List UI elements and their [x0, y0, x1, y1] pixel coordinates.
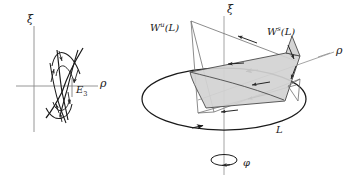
- figure-canvas: ξ ρ E3 ξ ρ Wu(L) Ws(L) L φ: [0, 0, 358, 181]
- right-panel-group: [142, 16, 334, 175]
- separatrix-long-right: [60, 50, 78, 116]
- rotation-label: φ: [243, 158, 250, 168]
- left-rho-axis-label: ρ: [100, 78, 106, 89]
- right-rho-axis-label: ρ: [336, 45, 342, 56]
- equilibrium-label: E3: [76, 85, 88, 98]
- left-xi-axis-label: ξ: [27, 14, 33, 25]
- rho-axis-arrow: [318, 53, 330, 57]
- periodic-orbit-label: L: [276, 125, 283, 135]
- right-xi-axis-label: ξ: [227, 4, 233, 15]
- stable-manifold-label-argument: (L): [281, 26, 295, 37]
- unstable-flow-arrow-top: [238, 36, 257, 43]
- unstable-manifold-label-argument: (L): [165, 22, 179, 33]
- unstable-manifold-label-base: W: [150, 22, 160, 33]
- stable-manifold-label: Ws(L): [267, 26, 295, 37]
- left-panel-group: [16, 26, 98, 132]
- unstable-manifold-label: Wu(L): [150, 22, 179, 33]
- separatrix-long-left: [50, 63, 66, 123]
- trajectory-lower-outer: [46, 104, 72, 119]
- left-flow-arrow-inbound-right: [74, 70, 78, 83]
- equilibrium-label-subscript: 3: [83, 90, 87, 98]
- stable-manifold-label-base: W: [267, 26, 277, 37]
- left-flow-arrow-bottom: [60, 113, 62, 122]
- orbit-arrow-front: [192, 126, 203, 129]
